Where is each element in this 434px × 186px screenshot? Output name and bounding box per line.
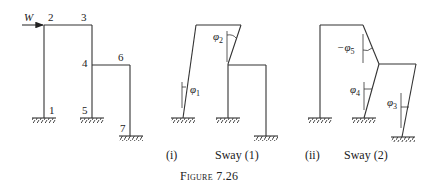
phi5-arc: [363, 48, 372, 51]
column-4-5-rotated: [364, 64, 379, 118]
joint-label-3: 3: [81, 12, 87, 23]
joint-label-6: 6: [118, 52, 124, 63]
sway-2-index: (ii): [305, 148, 320, 163]
load-label: W: [24, 12, 33, 23]
phi2-arc: [227, 35, 236, 38]
sway-1-title: Sway (1): [215, 148, 259, 163]
joint-label-5: 5: [82, 105, 88, 116]
sway-1-frame: [171, 25, 278, 141]
sway-1-index: (i): [166, 148, 177, 163]
sway-2-title: Sway (2): [344, 148, 388, 163]
angle-label-phi2: φ2: [213, 31, 223, 45]
column-6-7-rotated: [402, 64, 416, 137]
member-3-4-rotated: [363, 25, 379, 64]
joint-label-2: 2: [48, 12, 54, 23]
member-3-4-rotated: [228, 25, 241, 64]
figure-caption: Figure 7.26: [180, 169, 238, 184]
joint-label-7: 7: [120, 123, 126, 134]
column-1-2-rotated: [183, 25, 196, 118]
angle-label-phi5: −φ5: [337, 42, 355, 56]
joint-label-4: 4: [82, 58, 88, 69]
angle-label-phi4: φ4: [350, 84, 360, 98]
angle-label-phi3: φ3: [387, 97, 397, 111]
angle-label-phi1: φ1: [190, 84, 200, 98]
joint-label-1: 1: [49, 105, 55, 116]
sway-2-frame: [308, 25, 416, 142]
